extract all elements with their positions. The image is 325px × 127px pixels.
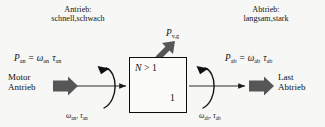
input-power-subscript: an [20, 57, 26, 64]
output-power-block-arrow [249, 77, 274, 96]
output-shaft-tau-subscript: ab [216, 115, 221, 121]
output-side-caption-subtitle: langsam,stark [216, 14, 316, 23]
source-label: Motor Antrieb [8, 72, 36, 92]
output-power-equation: Pab=ωabτab [225, 53, 272, 63]
input-side-caption: Antrieb: schnell,schwach [30, 5, 126, 23]
output-power-subscript: ab [231, 57, 237, 64]
output-side-caption: Abtrieb: langsam,stark [216, 5, 316, 23]
gearbox-ratio-label: N>1 [135, 63, 157, 74]
output-power-symbol: P [225, 53, 231, 63]
input-shaft-quantities: ωan,τan [66, 112, 88, 120]
source-label-line2: Antrieb [8, 82, 36, 92]
output-torque-arc [203, 68, 214, 108]
output-shaft-comma: , [209, 111, 211, 120]
output-tau-subscript: ab [267, 57, 273, 64]
gearbox-power-flow-diagram: Antrieb: schnell,schwach Abtrieb: langsa… [0, 0, 325, 127]
gearbox-ratio-value: 1 [152, 62, 157, 73]
loss-power-label: Pv,g [166, 28, 179, 38]
output-shaft-quantities: ωab,τab [199, 112, 221, 120]
input-side-caption-subtitle: schnell,schwach [30, 14, 126, 23]
sink-label-line1: Last [278, 72, 306, 82]
input-power-equation: Pan=ωanτan [14, 53, 61, 63]
gearbox-ratio-operator: > [144, 62, 150, 73]
loss-power-subscript: v,g [172, 32, 179, 39]
output-shaft-omega-subscript: ab [204, 115, 209, 121]
input-omega-subscript: an [43, 57, 49, 64]
input-shaft-comma: , [76, 111, 78, 120]
gearbox-output-value: 1 [170, 93, 175, 104]
sink-label: Last Abtrieb [278, 72, 306, 92]
input-shaft-tau-subscript: an [83, 115, 88, 121]
input-torque-arrowhead [98, 66, 110, 74]
input-tau-subscript: an [56, 57, 62, 64]
input-power-symbol: P [14, 53, 20, 63]
loss-power-symbol: P [166, 28, 172, 38]
input-shaft-omega-subscript: an [71, 115, 76, 121]
gearbox-ratio-symbol: N [135, 62, 142, 73]
input-torque-arc [104, 68, 115, 108]
output-equals-sign: = [240, 53, 245, 63]
input-power-block-arrow [53, 77, 78, 96]
source-label-line1: Motor [8, 72, 36, 82]
output-torque-arrowhead [197, 66, 209, 74]
sink-label-line2: Abtrieb [278, 82, 306, 92]
output-omega-subscript: ab [254, 57, 260, 64]
input-side-caption-title: Antrieb: [30, 5, 126, 14]
output-side-caption-title: Abtrieb: [216, 5, 316, 14]
input-equals-sign: = [29, 53, 34, 63]
